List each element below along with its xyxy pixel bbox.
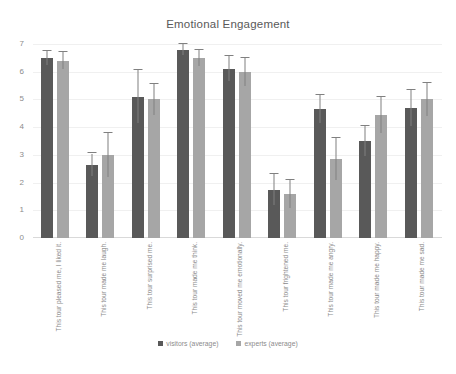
error-bar xyxy=(290,180,291,208)
bar-experts[interactable] xyxy=(284,44,296,238)
legend-label: visitors (average) xyxy=(166,340,218,347)
x-label-slot: This tour made me sad. xyxy=(397,240,442,335)
error-bar-cap-top xyxy=(377,96,386,97)
bar-rect[interactable] xyxy=(148,99,160,238)
y-axis-tick-6: 6 xyxy=(20,68,24,76)
bar-rect[interactable] xyxy=(314,109,326,238)
y-axis-tick-3: 3 xyxy=(20,151,24,159)
chart-legend: visitors (average)experts (average) xyxy=(0,340,456,347)
x-label-slot: This tour frightened me. xyxy=(260,240,305,335)
error-bar-cap-top xyxy=(331,137,340,138)
bar-rect[interactable] xyxy=(239,72,251,238)
bar-visitors[interactable] xyxy=(359,44,371,238)
bar-visitors[interactable] xyxy=(132,44,144,238)
bar-visitors[interactable] xyxy=(41,44,53,238)
bar-visitors[interactable] xyxy=(405,44,417,238)
bar-visitors[interactable] xyxy=(268,44,280,238)
bar-visitors[interactable] xyxy=(177,44,189,238)
error-bar-cap-top xyxy=(361,125,370,126)
bars-layer xyxy=(33,44,442,238)
bar-rect[interactable] xyxy=(421,99,433,238)
error-bar-cap-top xyxy=(149,83,158,84)
bar-group xyxy=(306,44,351,238)
bar-visitors[interactable] xyxy=(86,44,98,238)
x-axis-label: This tour moved me emotionally. xyxy=(237,242,244,337)
x-label-slot: This tour pleased me, I liked it. xyxy=(33,240,78,335)
error-bar-cap-top xyxy=(422,82,431,83)
error-bar xyxy=(137,70,138,123)
bar-group xyxy=(124,44,169,238)
y-axis-tick-1: 1 xyxy=(20,206,24,214)
x-label-slot: This tour made me happy. xyxy=(351,240,396,335)
error-bar xyxy=(274,174,275,204)
bar-experts[interactable] xyxy=(102,44,114,238)
bar-visitors[interactable] xyxy=(314,44,326,238)
bar-rect[interactable] xyxy=(405,108,417,238)
error-bar-cap-top xyxy=(88,152,97,153)
error-bar xyxy=(153,84,154,114)
error-bar xyxy=(426,83,427,116)
error-bar-cap-top xyxy=(406,89,415,90)
bar-experts[interactable] xyxy=(57,44,69,238)
y-axis: 01234567 xyxy=(0,44,30,238)
y-axis-tick-7: 7 xyxy=(20,40,24,48)
error-bar xyxy=(244,58,245,86)
bar-rect[interactable] xyxy=(193,58,205,238)
error-bar xyxy=(183,44,184,55)
error-bar xyxy=(335,138,336,180)
bar-group xyxy=(351,44,396,238)
x-axis-label: This tour surprised me. xyxy=(147,242,154,309)
legend-label: experts (average) xyxy=(244,340,297,347)
error-bar xyxy=(410,90,411,126)
bar-experts[interactable] xyxy=(421,44,433,238)
x-axis-labels: This tour pleased me, I liked it.This to… xyxy=(33,240,442,335)
error-bar-cap-top xyxy=(133,69,142,70)
bar-group xyxy=(33,44,78,238)
bar-rect[interactable] xyxy=(41,58,53,238)
legend-item[interactable]: visitors (average) xyxy=(158,340,218,347)
bar-experts[interactable] xyxy=(239,44,251,238)
error-bar-cap-top xyxy=(224,55,233,56)
bar-experts[interactable] xyxy=(193,44,205,238)
bar-rect[interactable] xyxy=(57,61,69,238)
error-bar xyxy=(63,52,64,69)
y-axis-tick-5: 5 xyxy=(20,95,24,103)
x-label-slot: This tour made me laugh. xyxy=(78,240,123,335)
error-bar xyxy=(199,50,200,67)
x-axis-label: This tour made me laugh. xyxy=(101,242,108,317)
x-label-slot: This tour made me think. xyxy=(169,240,214,335)
x-axis-label: This tour made me happy. xyxy=(374,242,381,318)
emotional-engagement-chart: Emotional Engagement 01234567 This tour … xyxy=(0,0,456,374)
error-bar-cap-top xyxy=(104,132,113,133)
bar-group xyxy=(78,44,123,238)
error-bar xyxy=(47,51,48,65)
x-label-slot: This tour surprised me. xyxy=(124,240,169,335)
error-bar xyxy=(319,95,320,123)
legend-item[interactable]: experts (average) xyxy=(236,340,297,347)
x-axis-label: This tour made me sad. xyxy=(419,242,426,311)
error-bar xyxy=(228,56,229,81)
bar-visitors[interactable] xyxy=(223,44,235,238)
bar-experts[interactable] xyxy=(375,44,387,238)
x-label-slot: This tour moved me emotionally. xyxy=(215,240,260,335)
error-bar-cap-top xyxy=(195,49,204,50)
error-bar xyxy=(381,97,382,133)
x-label-slot: This tour made me angry. xyxy=(306,240,351,335)
bar-group xyxy=(260,44,305,238)
x-axis-label: This tour pleased me, I liked it. xyxy=(56,242,63,331)
bar-experts[interactable] xyxy=(330,44,342,238)
bar-rect[interactable] xyxy=(375,115,387,238)
x-axis-label: This tour made me think. xyxy=(192,242,199,315)
error-bar-cap-top xyxy=(59,51,68,52)
error-bar-cap-top xyxy=(270,173,279,174)
error-bar-cap-top xyxy=(315,94,324,95)
bar-rect[interactable] xyxy=(177,50,189,238)
error-bar-cap-top xyxy=(286,179,295,180)
error-bar-cap-top xyxy=(240,57,249,58)
y-axis-tick-0: 0 xyxy=(20,234,24,242)
error-bar xyxy=(365,126,366,156)
bar-experts[interactable] xyxy=(148,44,160,238)
legend-swatch-icon xyxy=(158,341,163,346)
x-axis-label: This tour made me angry. xyxy=(328,242,335,317)
bar-rect[interactable] xyxy=(223,69,235,238)
